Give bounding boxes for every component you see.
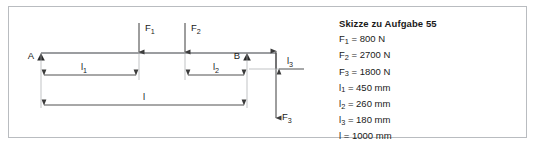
legend-symbol-l: l: [339, 130, 341, 141]
legend-sub-l1: 1: [341, 85, 345, 94]
legend-value-l1: = 450 mm: [348, 82, 391, 93]
dimension-l3-label: l3: [287, 55, 293, 69]
legend-sub-f2: 2: [345, 53, 349, 62]
dimension-l2-label: l2: [213, 61, 219, 75]
legend-symbol-f2: F: [339, 49, 345, 60]
force-f3-label: F3: [282, 111, 292, 125]
legend-value-l: = 1000 mm: [344, 130, 392, 141]
legend-item-f2: F2 = 2700 N: [339, 47, 519, 63]
legend-block: Skizze zu Aufgabe 55 F1 = 800 N F2 = 270…: [339, 16, 519, 145]
dimension-l1-label: l1: [81, 61, 87, 75]
legend-sub-l2: 2: [341, 102, 345, 111]
legend-value-f2: = 2700 N: [352, 49, 391, 60]
technical-drawing-panel: A B F1 F2 F3 l1: [8, 6, 527, 138]
dimension-l-total-label: l: [143, 91, 145, 102]
beam-diagram: A B F1 F2 F3 l1: [9, 7, 339, 139]
legend-item-l2: l2 = 260 mm: [339, 96, 519, 112]
legend-symbol-f3: F: [339, 66, 345, 77]
legend-value-l3: = 180 mm: [348, 114, 391, 125]
legend-item-l3: l3 = 180 mm: [339, 112, 519, 128]
legend-value-f1: = 800 N: [352, 33, 386, 44]
legend-item-f1: F1 = 800 N: [339, 31, 519, 47]
legend-symbol-f1: F: [339, 33, 345, 44]
legend-item-l1: l1 = 450 mm: [339, 80, 519, 96]
legend-item-f3: F3 = 1800 N: [339, 64, 519, 80]
legend-sub-f3: 3: [345, 69, 349, 78]
legend-sub-f1: 1: [345, 37, 349, 46]
force-f1-label: F1: [145, 22, 155, 36]
force-f2-label: F2: [191, 22, 201, 36]
legend-sub-l3: 3: [341, 118, 345, 127]
support-a-label: A: [28, 50, 35, 61]
legend-item-l: l = 1000 mm: [339, 128, 519, 144]
support-b-label: B: [234, 50, 240, 61]
legend-value-l2: = 260 mm: [348, 98, 391, 109]
legend-value-f3: = 1800 N: [352, 66, 391, 77]
legend-title: Skizze zu Aufgabe 55: [339, 16, 519, 31]
